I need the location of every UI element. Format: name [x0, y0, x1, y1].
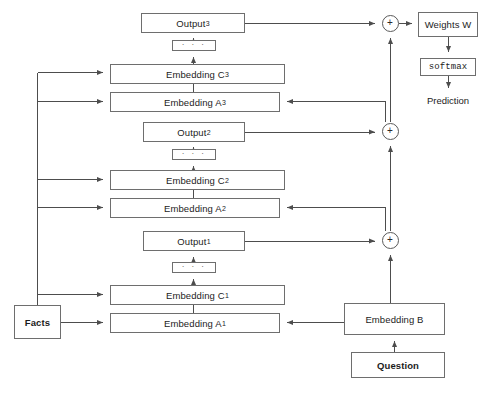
box-embedding-c2[interactable]: Embedding C2 — [110, 170, 285, 190]
box-output3[interactable]: Output3 — [141, 13, 245, 33]
adder-sum1-label: + — [387, 235, 393, 245]
box-embedding-b[interactable]: Embedding B — [344, 303, 445, 335]
box-embedding-a3-subscript: 3 — [222, 99, 226, 106]
box-embedding-b-label: Embedding B — [365, 314, 423, 325]
adder-sum3[interactable]: + — [382, 15, 399, 32]
ellipsis-icon: · · · — [182, 41, 206, 51]
box-embedding-c1-label: Embedding C — [166, 290, 225, 301]
box-output3-subscript: 3 — [205, 20, 209, 27]
diagram-canvas: Output3 · · · Embedding C3 Embedding A3 … — [0, 0, 487, 400]
adder-sum2-label: + — [387, 126, 393, 136]
box-embedding-c1[interactable]: Embedding C1 — [110, 285, 285, 305]
box-embedding-c3-label: Embedding C — [166, 69, 225, 80]
box-facts-input[interactable]: Facts — [14, 305, 61, 339]
box-output1-subscript: 1 — [206, 238, 210, 245]
box-softmax[interactable]: softmax — [420, 58, 476, 76]
box-embedding-a1-label: Embedding A — [164, 318, 222, 329]
box-embedding-c2-label: Embedding C — [166, 175, 225, 186]
box-dots2: · · · — [172, 149, 216, 160]
box-output1-label: Output — [177, 236, 206, 247]
box-softmax-label: softmax — [429, 62, 468, 72]
ellipsis-icon: · · · — [182, 263, 206, 273]
box-embedding-c3[interactable]: Embedding C3 — [110, 64, 285, 84]
ellipsis-icon: · · · — [182, 150, 206, 160]
box-embedding-a3-label: Embedding A — [164, 97, 222, 108]
box-embedding-c3-subscript: 3 — [225, 71, 229, 78]
box-output2-label: Output — [177, 127, 206, 138]
box-embedding-a1[interactable]: Embedding A1 — [110, 313, 280, 333]
box-question-label: Question — [377, 360, 419, 371]
adder-sum1[interactable]: + — [382, 232, 399, 249]
box-embedding-c1-subscript: 1 — [225, 292, 229, 299]
box-embedding-a2-subscript: 2 — [222, 205, 226, 212]
box-embedding-a3[interactable]: Embedding A3 — [110, 92, 280, 112]
box-output1[interactable]: Output1 — [143, 231, 245, 251]
wire-sum2-to-a3 — [287, 102, 386, 123]
adder-sum3-label: + — [387, 18, 393, 28]
box-weights-w[interactable]: Weights W — [418, 12, 478, 37]
box-output2[interactable]: Output2 — [143, 122, 245, 142]
box-output3-label: Output — [176, 18, 205, 29]
box-facts-label: Facts — [25, 317, 50, 328]
adder-sum2[interactable]: + — [382, 123, 399, 140]
wire-sum1-to-a2 — [287, 208, 386, 232]
box-dots3: · · · — [172, 40, 216, 51]
box-embedding-a1-subscript: 1 — [222, 320, 226, 327]
box-embedding-c2-subscript: 2 — [225, 177, 229, 184]
box-question-input[interactable]: Question — [351, 352, 445, 378]
box-embedding-a2-label: Embedding A — [164, 203, 222, 214]
box-weights-w-label: Weights W — [425, 19, 472, 30]
prediction-label: Prediction — [418, 95, 478, 106]
box-output2-subscript: 2 — [206, 129, 210, 136]
box-embedding-a2[interactable]: Embedding A2 — [110, 198, 280, 218]
box-dots1: · · · — [172, 262, 216, 273]
